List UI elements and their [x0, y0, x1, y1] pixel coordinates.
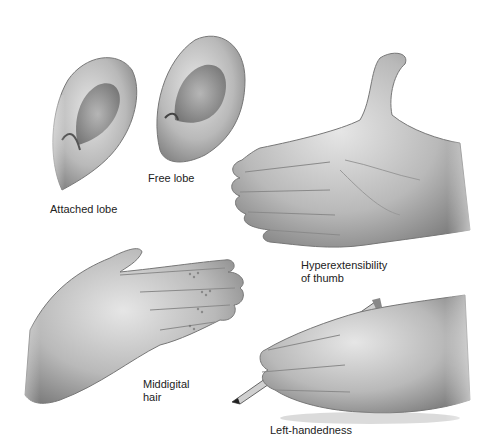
ear-free-lobe-icon — [157, 36, 245, 162]
label-left-handedness: Left-handedness — [270, 424, 352, 437]
hand-middigital-hair-icon — [0, 249, 243, 420]
label-hyperextensibility-of-thumb: Hyperextensibility of thumb — [301, 259, 387, 285]
label-middigital-hair: Middigital hair — [143, 378, 189, 404]
illustrations — [0, 0, 493, 445]
ear-attached-lobe-icon — [40, 58, 137, 195]
label-attached-lobe: Attached lobe — [50, 203, 117, 216]
label-free-lobe: Free lobe — [148, 172, 194, 185]
traits-figure: Attached lobe Free lobe Hyperextensibili… — [0, 0, 493, 445]
hand-hyperextended-thumb-icon — [232, 53, 492, 247]
hand-writing-pencil-icon — [232, 290, 493, 424]
